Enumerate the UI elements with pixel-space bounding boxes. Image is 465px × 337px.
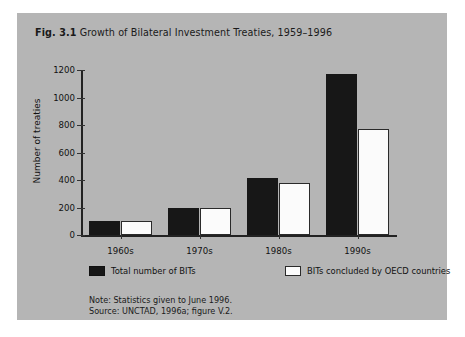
x-axis-tick [121, 235, 122, 239]
chart-bar [358, 129, 389, 235]
chart-bar [89, 221, 120, 235]
y-axis-tick-label: 200 [59, 203, 75, 213]
legend-swatch [285, 266, 301, 276]
figure-title-text: Growth of Bilateral Investment Treaties,… [80, 27, 332, 38]
y-axis-tick [77, 98, 85, 99]
figure-footnotes: Note: Statistics given to June 1996. Sou… [89, 295, 233, 317]
y-axis-tick-label: 1200 [53, 65, 75, 75]
chart-bar [121, 221, 152, 235]
y-axis-tick-label: 600 [59, 148, 75, 158]
figure-title: Fig. 3.1 Growth of Bilateral Investment … [35, 27, 332, 38]
x-axis-line [81, 235, 397, 237]
figure-number: Fig. 3.1 [35, 27, 77, 38]
x-axis-category-label: 1970s [186, 246, 212, 256]
legend-label: BITs concluded by OECD countries [307, 266, 450, 276]
figure-note: Note: Statistics given to June 1996. [89, 295, 233, 306]
y-axis-tick-label: 400 [59, 175, 75, 185]
y-axis-tick [77, 235, 85, 236]
y-axis-tick [77, 180, 85, 181]
y-axis-tick-label: 800 [59, 120, 75, 130]
x-axis-category-label: 1990s [344, 246, 370, 256]
chart-bar [168, 208, 199, 236]
chart-plot-wrapper: Number of treaties 020040060080010001200… [17, 58, 447, 258]
y-axis-tick-label: 0 [70, 230, 75, 240]
chart-bar [326, 74, 357, 235]
legend-entry: BITs concluded by OECD countries [285, 266, 450, 276]
legend-label: Total number of BITs [111, 266, 196, 276]
x-axis-tick [279, 235, 280, 239]
y-axis-tick [77, 208, 85, 209]
x-axis-category-label: 1960s [107, 246, 133, 256]
figure-panel: Fig. 3.1 Growth of Bilateral Investment … [17, 13, 447, 320]
chart-bar [200, 208, 231, 235]
chart-bar [279, 183, 310, 235]
legend-entry: Total number of BITs [89, 266, 196, 276]
y-axis-tick [77, 70, 85, 71]
y-axis-tick-label: 1000 [53, 93, 75, 103]
y-axis-tick [77, 153, 85, 154]
x-axis-tick [358, 235, 359, 239]
chart-bar [247, 178, 278, 235]
chart-plot-area: 020040060080010001200 1960s1970s1980s199… [81, 70, 397, 235]
x-axis-category-label: 1980s [265, 246, 291, 256]
x-axis-tick [200, 235, 201, 239]
legend-swatch [89, 266, 105, 276]
figure-source: Source: UNCTAD, 1996a; figure V.2. [89, 306, 233, 317]
y-axis-tick [77, 125, 85, 126]
y-axis-title: Number of treaties [32, 81, 42, 201]
